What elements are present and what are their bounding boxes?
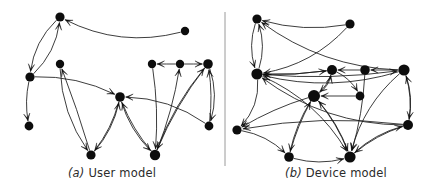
caption-label-b: Device model <box>306 166 387 180</box>
graph-edge <box>290 101 310 151</box>
graph-edge <box>34 23 60 74</box>
graph-node <box>181 27 189 35</box>
graph-node <box>356 92 365 101</box>
graph-edge <box>153 69 157 149</box>
graph-node <box>398 64 409 75</box>
graph-edge <box>252 24 256 68</box>
graph-node <box>284 152 294 162</box>
graph-edge <box>294 159 344 162</box>
graph-edge <box>242 131 285 153</box>
edge-arrowhead <box>262 23 270 30</box>
graph-node <box>251 68 262 79</box>
graph-node <box>232 125 241 134</box>
graph-edge <box>242 98 308 127</box>
caption-tag-b: (b) <box>285 166 302 180</box>
graph-node <box>25 72 34 81</box>
graph-node <box>344 151 355 162</box>
graph-user-model <box>0 0 224 166</box>
graph-node <box>55 12 64 21</box>
graph-edge <box>262 78 402 125</box>
graph-edge <box>354 126 402 152</box>
graph-node <box>205 122 214 131</box>
graph-edge <box>319 101 348 151</box>
graph-node <box>25 122 34 131</box>
edge-arrowhead <box>340 143 346 151</box>
graph-node <box>327 65 337 75</box>
graph-edge <box>126 97 205 123</box>
caption-device-model: (b) Device model <box>224 166 448 180</box>
figure-container: (a) User model (b) Device model <box>0 0 448 191</box>
graph-edge <box>259 24 263 68</box>
graph-edge <box>26 82 28 121</box>
graph-edge <box>352 75 365 150</box>
graph-edge <box>243 120 402 129</box>
caption-label-a: User model <box>88 166 156 180</box>
graph-node <box>360 65 370 75</box>
graph-node <box>345 19 354 28</box>
graph-edge <box>122 103 151 151</box>
graph-edge <box>94 103 118 151</box>
graph-node <box>86 150 95 159</box>
graph-device-model <box>224 0 448 166</box>
graph-node <box>252 14 261 23</box>
graph-edge <box>65 20 180 38</box>
edge-arrowhead <box>351 83 357 91</box>
graph-edge <box>121 102 150 150</box>
panel-device-model: (b) Device model <box>224 0 448 191</box>
graph-edge <box>263 21 346 28</box>
graph-edge <box>35 77 115 94</box>
graph-edge <box>60 69 88 151</box>
caption-tag-a: (a) <box>68 166 85 180</box>
graph-edge <box>355 127 403 153</box>
graph-edge <box>62 69 90 150</box>
graph-edge <box>95 102 119 150</box>
graph-node <box>176 60 184 68</box>
graph-node <box>56 60 64 68</box>
graph-node <box>115 92 125 102</box>
graph-node <box>403 120 413 130</box>
graph-edge <box>290 102 310 152</box>
graph-edge <box>262 23 398 70</box>
graph-node <box>203 59 213 69</box>
graph-edge <box>157 68 204 149</box>
edge-arrowhead <box>81 143 88 151</box>
graph-node <box>148 60 156 68</box>
graph-node <box>308 90 320 102</box>
graph-edge <box>318 101 348 151</box>
graph-node <box>150 150 160 160</box>
caption-user-model: (a) User model <box>0 166 224 180</box>
panel-user-model: (a) User model <box>0 0 224 191</box>
graph-edge <box>31 20 57 71</box>
